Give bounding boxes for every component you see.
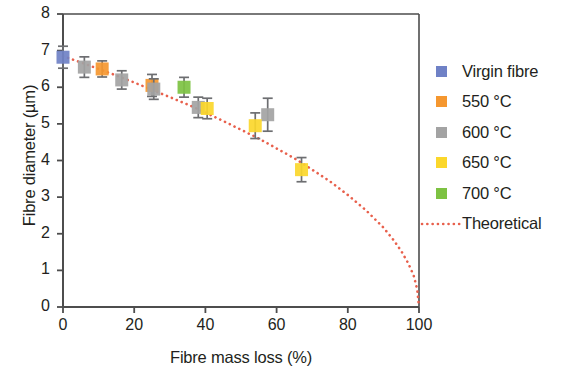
y-tick-label: 1 [20,260,50,278]
y-tick-label: 0 [20,297,50,315]
legend-color-swatch [436,127,447,138]
x-axis-title: Fibre mass loss (%) [63,348,419,367]
legend-item-label: 650 °C [462,153,511,172]
x-tick-label: 60 [257,316,297,334]
legend-color-swatch [436,96,447,107]
data-point [78,57,91,78]
data-point [295,158,308,182]
y-tick-label: 2 [20,224,50,242]
legend-item-label: Virgin fibre [462,62,538,81]
legend-item-label: Theoretical [462,214,541,233]
axis-lines [63,14,419,307]
axis-tick-marks [57,14,419,313]
x-tick-label: 0 [43,316,83,334]
legend-item[interactable]: 700 °C [436,178,572,209]
y-tick-label: 6 [20,77,50,95]
y-tick-label: 8 [20,4,50,22]
data-point [115,71,128,89]
x-tick-label: 40 [185,316,225,334]
legend-color-swatch [436,66,447,77]
legend-item[interactable]: Theoretical [436,209,572,240]
y-tick-label: 7 [20,41,50,59]
y-tick-label: 4 [20,151,50,169]
data-point [178,77,191,97]
legend-item-label: 550 °C [462,92,511,111]
data-point [96,61,109,77]
legend-item-label: 600 °C [462,123,511,142]
y-tick-label: 3 [20,187,50,205]
x-tick-label: 100 [399,316,439,334]
legend-dotted-line-icon [422,218,462,229]
x-tick-label: 80 [328,316,368,334]
legend-item[interactable]: Virgin fibre [436,56,572,87]
legend-item[interactable]: 550 °C [436,87,572,118]
chart-legend: Virgin fibre550 °C600 °C650 °C700 °CTheo… [436,56,572,239]
plot-area [63,14,419,307]
legend-color-swatch [436,188,447,199]
legend-item[interactable]: 650 °C [436,148,572,179]
chart-figure: Fibre diameter (µm) Fibre mass loss (%) … [0,0,572,377]
legend-color-swatch [436,157,447,168]
data-point [249,113,262,139]
data-point [57,46,70,68]
theoretical-curve [63,56,419,307]
y-tick-label: 5 [20,114,50,132]
legend-item[interactable]: 600 °C [436,117,572,148]
x-tick-label: 20 [114,316,154,334]
legend-item-label: 700 °C [462,184,511,203]
data-point [261,98,274,131]
